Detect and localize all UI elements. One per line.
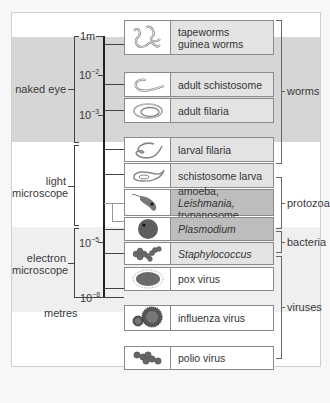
adult-schistosome-icon <box>125 73 171 96</box>
organism-row-larval-filaria: larval filaria <box>124 137 274 162</box>
bracket-tick <box>281 203 285 204</box>
organism-label: influenza virus <box>178 312 273 324</box>
organism-label: adult filaria <box>178 105 273 117</box>
scale-tick-1e-3: 10−3 <box>79 109 99 121</box>
organism-label: amoeba, Leishmania, <box>178 185 273 209</box>
organism-label: Staphylococcus <box>178 248 273 260</box>
range-tick <box>74 228 79 229</box>
adult-filaria-icon <box>125 99 171 122</box>
light-microscope-range-line <box>74 145 75 225</box>
connector <box>104 44 124 45</box>
organism-row-adult-schistosome: adult schistosome <box>124 72 274 97</box>
connector <box>104 229 124 230</box>
scale-unit-label: metres <box>44 307 78 319</box>
bracket-tick <box>281 307 285 308</box>
larval-filaria-icon <box>125 138 171 161</box>
organism-row-staphylococcus: Staphylococcus <box>124 242 274 265</box>
connector <box>112 221 124 222</box>
organism-label: pox virus <box>178 273 273 285</box>
range-tick <box>74 225 79 226</box>
range-tick <box>74 142 79 143</box>
scale-tick-mark <box>98 115 104 116</box>
group-label-protozoa: protozoa <box>287 197 330 209</box>
connector <box>104 297 124 298</box>
scale-tick-1e-8: 10−8 <box>80 292 100 304</box>
organism-label: adult schistosome <box>178 79 273 91</box>
connector <box>104 110 124 111</box>
organism-row-tapeworms: tapewormsguinea worms <box>124 20 274 55</box>
bracket-tick <box>281 242 285 243</box>
scale-tick-1e-5: 10−5 <box>79 237 99 249</box>
organism-label: tapeworms <box>178 26 273 38</box>
naked-eye-range-line <box>74 36 75 143</box>
connector <box>104 203 124 204</box>
organism-label: guinea worms <box>178 38 273 50</box>
polio-virus-icon <box>125 347 171 369</box>
connector <box>104 149 124 150</box>
range-tick <box>68 89 74 90</box>
range-tick <box>74 145 79 146</box>
organism-label: larval filaria <box>178 144 273 156</box>
range-tick <box>74 36 79 37</box>
connector <box>112 203 113 221</box>
range-label-electron-microscope: electronmicroscope <box>12 252 66 276</box>
organism-row-plasmodium: Plasmodium <box>124 217 274 241</box>
connector <box>104 174 124 175</box>
scale-tick-mark <box>74 297 104 298</box>
group-label-worms: worms <box>287 85 319 97</box>
range-tick <box>68 263 74 264</box>
scale-tick-mark <box>98 242 104 243</box>
electron-microscope-range-line <box>74 228 75 297</box>
staphylococcus-icon <box>125 243 171 264</box>
group-label-bacteria: bacteria <box>287 236 326 248</box>
trypanosome-icon <box>125 190 171 215</box>
organism-row-influenza-virus: influenza virus <box>124 305 274 331</box>
scale-tick-1e-2: 10−2 <box>79 69 99 81</box>
range-label-naked-eye: naked eye <box>12 83 66 95</box>
worms-bracket <box>276 20 282 164</box>
organism-row-adult-filaria: adult filaria <box>124 98 274 123</box>
group-label-viruses: viruses <box>287 301 322 313</box>
schistosome-larva-icon <box>125 164 171 187</box>
range-label-light-microscope: lightmicroscope <box>12 175 66 199</box>
diagram-frame: naked eye lightmicroscope electronmicros… <box>11 12 321 367</box>
organism-label: polio virus <box>178 352 273 364</box>
scale-tick-mark <box>96 36 104 37</box>
connector <box>104 288 124 289</box>
organism-label: schistosome larva <box>178 170 273 182</box>
organism-row-protozoa-amoeba: amoeba, Leishmania,trypanosome <box>124 189 274 216</box>
bracket-tick <box>281 91 285 92</box>
influenza-virus-icon <box>125 306 171 330</box>
scale-tick-1m: 1m <box>80 30 95 42</box>
scale-tick-mark <box>98 75 104 76</box>
organism-label: Plasmodium <box>178 223 273 235</box>
tapeworm-icon <box>125 21 171 54</box>
pox-virus-icon <box>125 268 171 290</box>
plasmodium-icon <box>125 218 171 240</box>
connector <box>104 253 124 254</box>
range-tick <box>68 186 74 187</box>
connector <box>104 84 124 85</box>
organism-row-polio-virus: polio virus <box>124 346 274 370</box>
organism-row-pox-virus: pox virus <box>124 267 274 291</box>
